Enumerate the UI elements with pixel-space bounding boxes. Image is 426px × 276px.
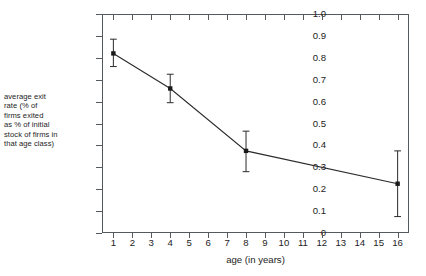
- x-axis-tick-mark-top: [303, 15, 304, 20]
- x-axis-title: age (in years): [102, 254, 409, 265]
- y-axis-label-line: average exit: [4, 92, 78, 101]
- x-axis-tick-mark-top: [151, 15, 152, 20]
- y-axis-tick-mark: [96, 189, 102, 190]
- y-axis-tick-label: 0.8: [292, 53, 326, 63]
- y-axis-tick-label: 0.2: [292, 184, 326, 194]
- y-axis-tick-mark: [96, 124, 102, 125]
- y-axis-tick-label: 0.3: [292, 162, 326, 172]
- y-axis-tick-mark: [96, 36, 102, 37]
- x-axis-tick-mark-top: [379, 15, 380, 20]
- y-axis-tick-label: 0.9: [292, 31, 326, 41]
- y-axis-tick-mark: [96, 145, 102, 146]
- y-axis-label-line: stock of firms in: [4, 130, 78, 139]
- y-axis-tick-label: 0.4: [292, 141, 326, 151]
- y-axis-tick-label: 0.5: [292, 119, 326, 129]
- y-axis-tick-mark: [96, 102, 102, 103]
- x-axis-tick-mark-top: [360, 15, 361, 20]
- x-axis-tick-mark-top: [246, 15, 247, 20]
- y-axis-tick-label: 0.1: [292, 206, 326, 216]
- y-axis-tick-mark: [96, 14, 102, 15]
- y-axis-label: average exit rate (% of firms exited as …: [4, 92, 78, 148]
- x-axis-tick-mark-top: [341, 15, 342, 20]
- y-axis-tick-mark: [96, 80, 102, 81]
- x-axis-tick-mark-top: [170, 15, 171, 20]
- y-axis-label-line: as % of initial: [4, 120, 78, 129]
- x-axis-tick-mark-top: [322, 15, 323, 20]
- y-axis-tick-label: 0.6: [292, 97, 326, 107]
- y-axis-label-line: rate (% of: [4, 101, 78, 110]
- y-axis-tick-label: 0.7: [292, 75, 326, 85]
- x-axis-tick-mark-top: [132, 15, 133, 20]
- x-axis-tick-mark-top: [189, 15, 190, 20]
- x-axis-tick-mark-top: [227, 15, 228, 20]
- x-axis-tick-label: 16: [387, 238, 409, 248]
- x-axis-tick-mark-top: [265, 15, 266, 20]
- x-axis-tick-mark-top: [113, 15, 114, 20]
- x-axis-tick-mark-top: [398, 15, 399, 20]
- plot-area: [102, 14, 409, 233]
- x-axis-tick-mark-top: [284, 15, 285, 20]
- y-axis-tick-mark: [96, 211, 102, 212]
- x-axis-tick-mark-top: [208, 15, 209, 20]
- y-axis-label-line: that age class): [4, 139, 78, 148]
- y-axis-label-line: firms exited: [4, 111, 78, 120]
- y-axis-tick-mark: [96, 233, 102, 234]
- y-axis-tick-mark: [96, 167, 102, 168]
- exit-rate-line-chart: average exit rate (% of firms exited as …: [0, 0, 426, 276]
- y-axis-tick-mark: [96, 58, 102, 59]
